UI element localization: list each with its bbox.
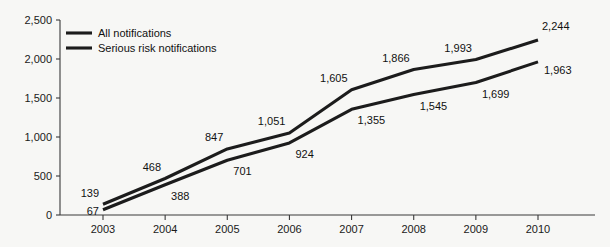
x-tick-label: 2003: [91, 223, 115, 235]
line-chart: 05001,0001,5002,0002,500 200320042005200…: [0, 0, 610, 247]
point-value-label: 139: [81, 187, 99, 199]
point-value-label: 701: [233, 165, 251, 177]
point-value-label: 1,605: [320, 72, 348, 84]
point-value-label: 847: [205, 131, 223, 143]
x-tick-label: 2004: [153, 223, 177, 235]
point-value-label: 468: [143, 161, 161, 173]
point-value-label: 1,866: [382, 52, 410, 64]
point-value-label: 1,355: [358, 114, 386, 126]
point-value-label: 2,244: [542, 20, 570, 32]
y-tick-label: 1,000: [24, 131, 52, 143]
chart-canvas: 05001,0001,5002,0002,500 200320042005200…: [0, 0, 610, 247]
y-tick-label: 1,500: [24, 92, 52, 104]
x-tick-label: 2005: [215, 223, 239, 235]
x-tick-label: 2010: [526, 223, 550, 235]
point-value-label: 1,993: [444, 42, 472, 54]
point-value-label: 1,051: [258, 115, 286, 127]
y-tick-label: 2,500: [24, 14, 52, 26]
point-value-label: 67: [87, 205, 99, 217]
point-value-label: 924: [295, 148, 313, 160]
point-value-label: 1,963: [544, 64, 572, 76]
x-tick-label: 2008: [401, 223, 425, 235]
point-value-label: 1,699: [482, 88, 510, 100]
x-tick-label: 2009: [464, 223, 488, 235]
point-value-label: 388: [171, 190, 189, 202]
x-tick-label: 2007: [339, 223, 363, 235]
y-tick-label: 2,000: [24, 53, 52, 65]
point-value-label: 1,545: [420, 100, 448, 112]
y-tick-label: 500: [34, 170, 52, 182]
x-tick-label: 2006: [277, 223, 301, 235]
legend-label: All notifications: [98, 27, 172, 39]
y-tick-label: 0: [46, 209, 52, 221]
legend-label: Serious risk notifications: [98, 42, 217, 54]
